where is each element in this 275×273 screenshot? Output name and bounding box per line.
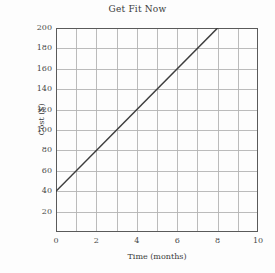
x-axis-tick-label: 4 [127,237,147,245]
y-axis-tick-label: 140 [18,85,52,93]
y-axis-tick-label: 160 [18,65,52,73]
x-axis-tick-label: 10 [248,237,268,245]
x-axis-tick-label: 6 [167,237,187,245]
y-axis-tick-label: 60 [18,167,52,175]
plot-grid-and-series [56,28,258,232]
y-axis-tick-label: 100 [18,126,52,134]
y-axis-tick-label: 40 [18,187,52,195]
plot-area [56,28,258,232]
x-axis-tick-label: 0 [46,237,66,245]
x-axis-tick-label: 8 [208,237,228,245]
y-axis-tick-label: 20 [18,208,52,216]
data-series-line [56,28,218,191]
x-axis-title: Time (months) [56,252,258,261]
x-axis-tick-labels: 0246810 [56,237,266,249]
axis-lines [56,28,258,232]
y-axis-tick-label: 120 [18,106,52,114]
y-axis-tick-label: 80 [18,146,52,154]
y-axis-tick-labels: 20406080100120140160180200 [14,0,52,273]
chart-figure: Get Fit Now Cost ($) 2040608010012014016… [0,0,275,273]
horizontal-gridlines [56,29,258,233]
vertical-gridlines [57,28,259,232]
y-axis-tick-label: 200 [18,24,52,32]
y-axis-tick-label: 180 [18,44,52,52]
x-axis-tick-label: 2 [86,237,106,245]
